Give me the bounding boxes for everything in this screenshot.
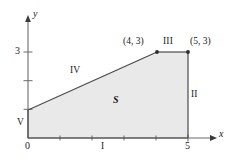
x-tick-label-5: 5	[185, 141, 190, 151]
vertex-dot-5-3	[186, 50, 190, 54]
edge-label-iv: IV	[70, 66, 80, 76]
x-axis-label: x	[219, 129, 223, 139]
y-tick-label-3: 3	[15, 46, 20, 56]
point-label-5-3: (5, 3)	[190, 37, 211, 47]
y-axis-label: y	[33, 9, 37, 19]
edge-label-i: I	[101, 142, 104, 152]
edge-label-ii: II	[191, 90, 198, 100]
vertex-dot-4-3	[155, 50, 159, 54]
y-axis-arrow-icon	[25, 15, 31, 22]
x-axis-arrow-icon	[210, 135, 217, 141]
edge-label-v: V	[17, 118, 24, 128]
edge-label-iii: III	[163, 37, 173, 47]
region-s-fill	[28, 52, 188, 138]
origin-label: 0	[25, 141, 30, 151]
region-diagram: y x 3 0 5 I II III IV V S (4, 3) (5, 3)	[0, 0, 231, 163]
region-label-s: S	[113, 95, 119, 105]
plot-canvas	[0, 0, 231, 163]
point-label-4-3: (4, 3)	[123, 37, 144, 47]
